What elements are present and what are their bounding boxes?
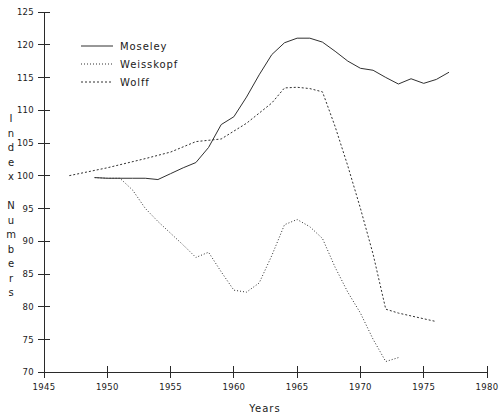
y-axis-title-char: b	[8, 244, 14, 255]
series-line-wolff	[69, 87, 436, 321]
legend: Moseley Weisskopf Wolff	[81, 41, 178, 88]
y-axis-title-char: N	[7, 200, 14, 211]
x-tick-label: 1945	[33, 382, 56, 392]
x-tick-label: 1960	[222, 382, 245, 392]
y-axis-title-char: I	[10, 113, 13, 124]
x-axis-title: Years	[248, 403, 280, 414]
y-tick-label: 100	[17, 171, 34, 181]
legend-label-moseley: Moseley	[120, 41, 167, 52]
y-tick-label: 85	[23, 269, 34, 279]
y-axis-title-char: s	[8, 287, 13, 298]
y-tick-label: 90	[23, 236, 34, 246]
y-axis-title-char: x	[8, 171, 14, 182]
y-axis-ticks: 125 120 115 110 105 100 95 90 85 80 75 7…	[17, 7, 50, 377]
x-axis-ticks: 1945 1950 1955 1960 1965 1970 1975 1980	[33, 366, 499, 392]
y-axis-title-char: e	[8, 258, 14, 269]
x-tick-label: 1975	[412, 382, 435, 392]
y-tick-label: 125	[17, 7, 34, 17]
y-tick-label: 75	[23, 335, 34, 345]
y-tick-label: 105	[17, 138, 34, 148]
line-chart: 125 120 115 110 105 100 95 90 85 80 75 7…	[0, 0, 503, 419]
y-axis-title: IndexNumbers	[6, 113, 16, 298]
x-tick-label: 1950	[96, 382, 119, 392]
y-tick-label: 70	[23, 367, 34, 377]
y-tick-label: 110	[17, 105, 34, 115]
y-tick-label: 115	[17, 73, 34, 83]
y-axis-title-char: m	[6, 229, 16, 240]
y-axis-title-char: u	[8, 215, 14, 226]
y-axis-title-char: d	[8, 142, 14, 153]
chart-container: 125 120 115 110 105 100 95 90 85 80 75 7…	[0, 0, 503, 419]
legend-label-wolff: Wolff	[120, 77, 150, 88]
x-tick-label: 1970	[349, 382, 372, 392]
legend-label-weisskopf: Weisskopf	[120, 59, 178, 70]
y-tick-label: 80	[23, 302, 34, 312]
y-axis-title-char: n	[8, 128, 14, 139]
y-axis-title-char: e	[8, 157, 14, 168]
x-tick-label: 1965	[286, 382, 309, 392]
y-tick-label: 120	[17, 40, 34, 50]
series-line-weisskopf	[95, 178, 399, 362]
y-tick-label: 95	[23, 204, 34, 214]
x-tick-label: 1980	[476, 382, 499, 392]
x-tick-label: 1955	[159, 382, 182, 392]
y-axis-title-char: r	[9, 273, 14, 284]
